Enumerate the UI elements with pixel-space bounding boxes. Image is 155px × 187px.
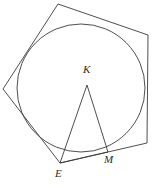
vertex-label-k: K bbox=[83, 64, 90, 75]
figure-canvas bbox=[0, 0, 155, 187]
circumscribed-pentagon bbox=[3, 4, 148, 163]
vertex-label-m: M bbox=[104, 154, 113, 165]
vertex-label-e: E bbox=[55, 168, 62, 179]
triangle-kem bbox=[60, 85, 108, 163]
geometry-figure: K E M bbox=[0, 0, 155, 187]
